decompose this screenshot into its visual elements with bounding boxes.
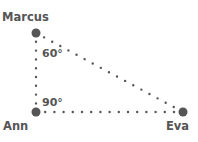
point-eva: [179, 108, 188, 117]
angle-label-marcus: 60°: [42, 48, 63, 59]
label-marcus: Marcus: [2, 12, 49, 24]
angle-label-ann: 90°: [42, 97, 63, 108]
point-ann: [32, 108, 41, 117]
point-marcus: [32, 29, 41, 38]
label-eva: Eva: [166, 121, 189, 133]
label-ann: Ann: [3, 121, 28, 133]
